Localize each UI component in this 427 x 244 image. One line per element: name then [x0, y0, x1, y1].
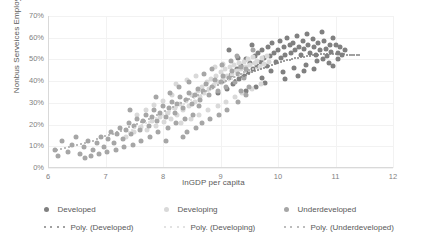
- trendline-dot: [259, 66, 261, 68]
- trendline-dot: [309, 55, 311, 57]
- trendline-dot: [80, 143, 82, 145]
- trendline-dot: [155, 117, 157, 119]
- legend-label: Poly. (Developing): [191, 223, 256, 232]
- scatter-point: [181, 134, 186, 139]
- trendline-dot: [225, 80, 227, 82]
- trendline-dot: [343, 53, 345, 55]
- scatter-point: [139, 138, 144, 143]
- scatter-point: [311, 67, 316, 72]
- trendline-dot: [100, 137, 102, 139]
- scatter-point: [81, 145, 86, 150]
- scatter-point: [259, 75, 264, 80]
- trendline-dot: [68, 146, 70, 148]
- scatter-point: [131, 143, 136, 148]
- trendline-dot: [237, 74, 239, 76]
- legend-item[interactable]: Poly. (Developed): [34, 223, 154, 232]
- gridline-vertical: [221, 16, 222, 168]
- scatter-point: [135, 117, 140, 122]
- trendline-dot: [120, 130, 122, 132]
- y-axis-title: Nonbus Serveices Employment Share: [12, 0, 24, 100]
- scatter-point: [182, 117, 187, 122]
- scatter-point: [282, 76, 287, 81]
- scatter-point: [260, 47, 265, 52]
- scatter-point: [144, 128, 149, 133]
- scatter-point: [290, 41, 295, 46]
- scatter-point: [77, 151, 82, 156]
- trendline-dot: [234, 76, 236, 78]
- legend-dotted-line-icon: [284, 225, 306, 230]
- trendline-dot: [243, 75, 245, 77]
- trendline-dot: [320, 53, 322, 55]
- trendline-dot: [162, 114, 164, 116]
- trendline-dot: [180, 102, 182, 104]
- trendline-dot: [263, 67, 265, 69]
- scatter-point: [152, 108, 157, 113]
- scatter-point: [185, 130, 190, 135]
- scatter-point: [208, 117, 213, 122]
- scatter-point: [94, 141, 99, 146]
- scatter-point: [243, 93, 248, 98]
- scatter-point: [258, 82, 263, 87]
- scatter-point: [331, 35, 336, 40]
- scatter-point: [148, 134, 153, 139]
- scatter-point: [269, 69, 274, 74]
- legend-marker-icon: [284, 207, 289, 212]
- scatter-point: [280, 70, 285, 75]
- trendline-dot: [72, 145, 74, 147]
- scatter-point: [189, 101, 194, 106]
- trendline-dot: [217, 84, 219, 86]
- trendline-dot: [128, 126, 130, 128]
- trendline-dot: [260, 68, 262, 70]
- trendline-dot: [229, 78, 231, 80]
- trendline-dot: [335, 53, 337, 55]
- scatter-point: [89, 154, 94, 159]
- legend-item[interactable]: Developed: [34, 205, 154, 214]
- legend-item[interactable]: Poly. (Developing): [154, 223, 274, 232]
- scatter-point: [310, 36, 315, 41]
- trendline-dot: [184, 100, 186, 102]
- trendline-dot: [112, 133, 114, 135]
- trendline-dot: [164, 110, 166, 112]
- trendline-dot: [323, 53, 325, 55]
- scatter-point: [172, 110, 177, 115]
- scatter-point: [322, 38, 327, 43]
- gridline-vertical: [336, 16, 337, 168]
- trendline-dot: [326, 53, 328, 55]
- trendline-dot: [254, 70, 256, 72]
- trendline-dot: [104, 135, 106, 137]
- trendline-dot: [134, 127, 136, 129]
- scatter-point: [161, 98, 166, 103]
- scatter-point: [129, 132, 134, 137]
- scatter-point: [177, 84, 182, 89]
- trendline-dot: [138, 126, 140, 128]
- scatter-point: [238, 65, 243, 70]
- scatter-point: [126, 121, 131, 126]
- scatter-point: [266, 45, 271, 50]
- trendline-dot: [268, 65, 270, 67]
- trendline-dot: [124, 128, 126, 130]
- scatter-point: [264, 54, 269, 59]
- legend-item[interactable]: Underdeveloped: [274, 205, 394, 214]
- trendline-dot: [255, 67, 257, 69]
- trendline-dot: [116, 131, 118, 133]
- trendline-dot: [60, 148, 62, 150]
- y-tick-label: 20%: [29, 121, 44, 129]
- trendline-dot: [179, 104, 181, 106]
- scatter-point: [66, 149, 71, 154]
- trendline-dot: [243, 71, 245, 73]
- scatter-point: [83, 156, 88, 161]
- trendline-dot: [294, 57, 296, 59]
- trendline-dot: [303, 56, 305, 58]
- trendline-dot: [286, 59, 288, 61]
- scatter-point: [120, 136, 125, 141]
- trendline-dot: [176, 106, 178, 108]
- legend-label: Developing: [178, 205, 218, 214]
- chart-legend: DevelopedDevelopingUnderdeveloped Poly. …: [0, 200, 427, 240]
- legend-item[interactable]: Developing: [154, 205, 274, 214]
- trendline-dot: [257, 69, 259, 71]
- gridline-horizontal: [48, 168, 393, 169]
- y-axis-line: [48, 16, 49, 168]
- scatter-point: [200, 121, 205, 126]
- legend-label: Developed: [58, 205, 96, 214]
- legend-item[interactable]: Poly. (Underdeveloped): [274, 223, 394, 232]
